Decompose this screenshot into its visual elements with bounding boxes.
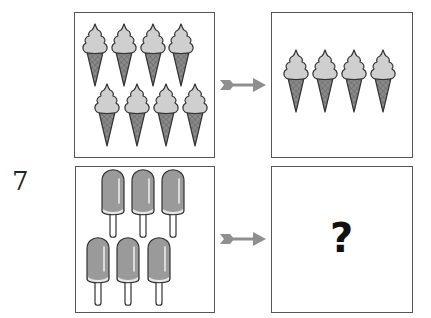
question-mark: ?: [330, 218, 353, 258]
ice-cream-cone-icon: [282, 48, 310, 114]
question-number: 7: [12, 168, 29, 194]
ice-cream-cone-icon: [181, 82, 209, 148]
arrow-right-icon: [220, 77, 266, 93]
arrow-right-icon: [220, 231, 266, 247]
ice-cream-cone-icon: [139, 22, 167, 88]
ice-cream-cone-icon: [123, 82, 151, 148]
ice-cream-cone-icon: [340, 48, 368, 114]
popsicle-icon: [131, 169, 155, 239]
popsicle-icon: [147, 237, 171, 307]
ice-cream-cone-icon: [110, 22, 138, 88]
ice-cream-cone-icon: [369, 48, 397, 114]
ice-cream-cone-icon: [152, 82, 180, 148]
ice-cream-cone-icon: [93, 82, 121, 148]
popsicle-icon: [161, 169, 185, 239]
ice-cream-cone-icon: [81, 22, 109, 88]
ice-cream-cone-icon: [311, 48, 339, 114]
popsicle-icon: [86, 237, 110, 307]
popsicle-icon: [101, 169, 125, 239]
ice-cream-cone-icon: [167, 22, 195, 88]
popsicle-icon: [116, 237, 140, 307]
